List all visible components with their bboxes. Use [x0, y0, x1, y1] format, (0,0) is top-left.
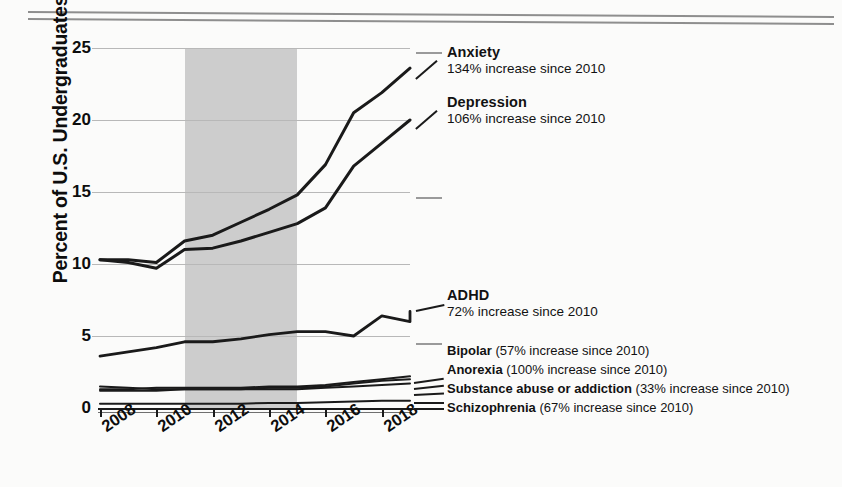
- x-tick-mark: [382, 408, 384, 417]
- annotation-depression-title: Depression: [447, 94, 605, 110]
- gridline-cap: [92, 120, 100, 121]
- annotation-substance-abuse: Substance abuse or addiction (33% increa…: [447, 381, 789, 396]
- leader-schizophrenia-b: [414, 408, 444, 410]
- x-tick-mark: [100, 408, 102, 417]
- y-tick-label: 25: [45, 38, 91, 58]
- leader-mid-guide: [416, 197, 442, 199]
- leader-substance-c: [414, 392, 444, 396]
- x-axis-line: [98, 408, 412, 410]
- annotation-anxiety: Anxiety 134% increase since 2010: [447, 44, 605, 76]
- gridline-cap: [92, 336, 100, 337]
- leader-depression: [415, 110, 438, 130]
- annotation-adhd-subtitle: 72% increase since 2010: [447, 304, 598, 319]
- annotation-anxiety-title: Anxiety: [447, 44, 605, 60]
- annotation-adhd-title: ADHD: [447, 287, 598, 303]
- series-line: [100, 312, 410, 357]
- leader-substance-a: [414, 378, 444, 384]
- annotation-schizophrenia-note: (67% increase since 2010): [536, 400, 694, 415]
- annotation-schizophrenia-name: Schizophrenia: [447, 400, 536, 415]
- annotation-anorexia-note: (100% increase since 2010): [503, 362, 668, 377]
- annotation-anorexia-name: Anorexia: [447, 362, 503, 377]
- series-line: [100, 68, 410, 262]
- gridline-cap: [92, 264, 100, 265]
- annotation-substance-abuse-name: Substance abuse or addiction: [447, 381, 632, 396]
- y-tick-label: 5: [45, 326, 91, 346]
- x-tick-mark: [269, 408, 271, 417]
- annotation-bipolar-name: Bipolar: [447, 343, 492, 358]
- annotation-substance-abuse-note: (33% increase since 2010): [632, 381, 790, 396]
- leader-schizophrenia-a: [414, 402, 444, 404]
- x-tick-mark: [213, 408, 215, 417]
- annotation-adhd: ADHD 72% increase since 2010: [447, 287, 598, 319]
- annotation-anxiety-subtitle: 134% increase since 2010: [447, 61, 605, 76]
- leader-anxiety-top: [416, 52, 442, 54]
- chart-figure: Percent of U.S. Undergraduates 051015202…: [0, 0, 842, 487]
- leader-bipolar: [416, 343, 442, 345]
- y-tick-label: 10: [45, 254, 91, 274]
- annotation-depression: Depression 106% increase since 2010: [447, 94, 605, 126]
- gridline-cap: [92, 192, 100, 193]
- plot-area: 0510152025 200820102012201420162018: [100, 48, 410, 408]
- annotation-depression-subtitle: 106% increase since 2010: [447, 111, 605, 126]
- leader-substance-b: [414, 385, 444, 390]
- series-lines: [100, 48, 410, 408]
- y-tick-label: 20: [45, 110, 91, 130]
- series-line: [100, 401, 410, 404]
- header-rule-top: [28, 11, 834, 18]
- leader-adhd: [416, 304, 445, 312]
- y-tick-label: 0: [45, 398, 91, 418]
- x-axis-line-shadow: [98, 412, 412, 413]
- header-rule-bottom: [28, 18, 834, 25]
- annotation-schizophrenia: Schizophrenia (67% increase since 2010): [447, 400, 693, 415]
- series-line: [100, 120, 410, 268]
- annotation-bipolar-note: (57% increase since 2010): [492, 343, 650, 358]
- y-tick-label: 15: [45, 182, 91, 202]
- leader-anxiety: [415, 60, 438, 80]
- gridline-cap: [92, 48, 100, 49]
- annotation-bipolar: Bipolar (57% increase since 2010): [447, 343, 649, 358]
- annotation-anorexia: Anorexia (100% increase since 2010): [447, 362, 667, 377]
